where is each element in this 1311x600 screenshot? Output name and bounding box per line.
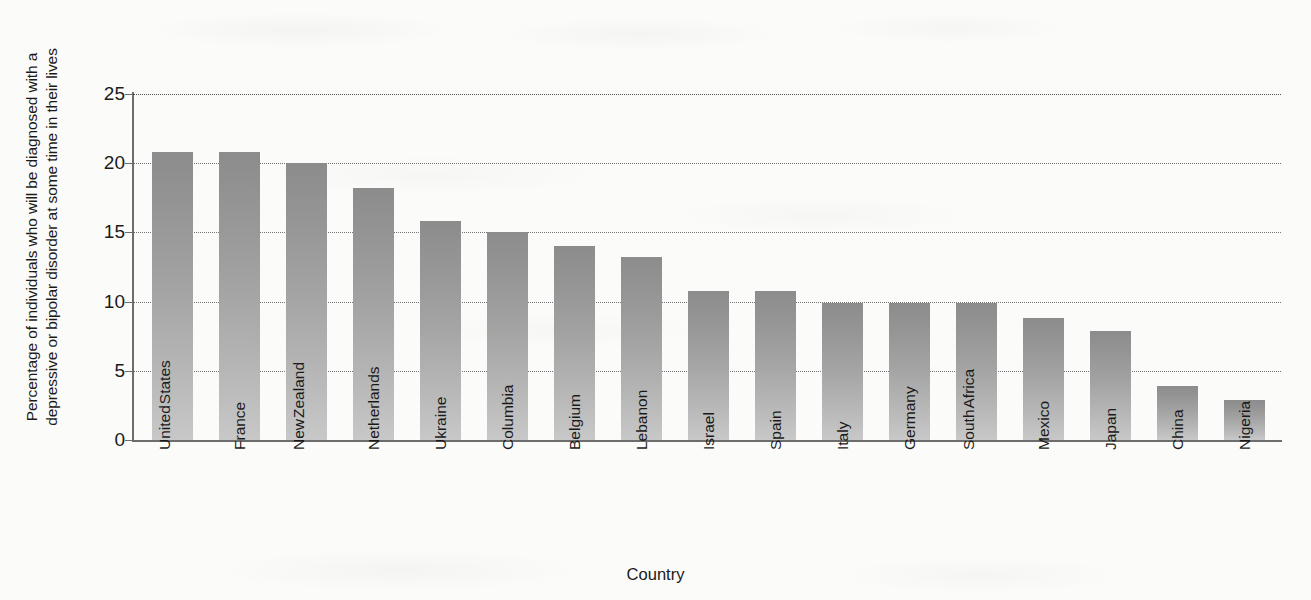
x-tick-label-word: France (231, 402, 248, 450)
x-tick-label-word: New (290, 419, 307, 450)
x-axis-title-label: Country (627, 565, 685, 583)
x-tick-label-word: Lebanon (633, 390, 650, 450)
y-tick-mark-15 (125, 232, 133, 233)
x-tick-label-word: South (960, 409, 977, 450)
x-tick-label-word: Africa (960, 369, 977, 409)
y-tick-mark-5 (125, 371, 133, 372)
x-tick-label-word: Spain (767, 410, 784, 450)
x-tick-label-word: Japan (1102, 408, 1119, 450)
y-tick-mark-20 (125, 163, 133, 164)
y-axis-title-line-2: depressive or bipolar disorder at some t… (42, 48, 62, 426)
x-tick-label-word: China (1169, 410, 1186, 451)
x-tick-label-word: United (156, 405, 173, 450)
x-tick-label-word: Nigeria (1236, 401, 1253, 450)
x-tick-label-word: Zealand (290, 362, 307, 418)
y-tick-mark-25 (125, 94, 133, 95)
bar (219, 152, 260, 440)
x-tick-label-word: Belgium (566, 394, 583, 450)
x-tick-label-word: Germany (901, 386, 918, 450)
x-tick-label-word: Netherlands (365, 366, 382, 450)
x-tick-label-word: States (156, 360, 173, 404)
x-axis-title: Country (0, 565, 1311, 584)
y-tick-label-0: 0 (81, 430, 125, 449)
y-axis-title-line-1: Percentage of individuals who will be di… (22, 53, 42, 422)
y-tick-label-10: 10 (81, 292, 125, 311)
x-tick-label-word: Ukraine (432, 397, 449, 450)
x-tick-label-word: Mexico (1035, 401, 1052, 450)
y-tick-label-5: 5 (81, 361, 125, 380)
x-tick-label-word: Columbia (499, 385, 516, 450)
gridline-25 (133, 94, 1281, 96)
y-tick-label-25: 25 (81, 84, 125, 103)
y-tick-mark-0 (125, 440, 133, 441)
y-tick-label-15: 15 (81, 222, 125, 241)
x-tick-label-word: Israel (700, 412, 717, 450)
bar (822, 303, 863, 440)
y-tick-label-20: 20 (81, 153, 125, 172)
y-axis-ticks: 0510152025 (75, 0, 125, 600)
y-tick-mark-10 (125, 302, 133, 303)
bar-chart: Percentage of individuals who will be di… (0, 0, 1311, 600)
x-tick-label-word: Italy (834, 422, 851, 450)
